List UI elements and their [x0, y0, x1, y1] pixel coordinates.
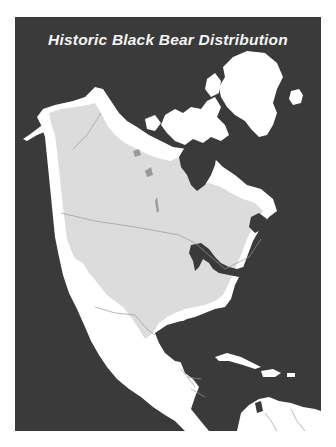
map-title: Historic Black Bear Distribution	[15, 31, 321, 49]
arctic-island-3	[145, 115, 161, 131]
arctic-island-2	[205, 73, 221, 97]
north-america-map	[15, 17, 321, 431]
puerto-rico	[287, 373, 295, 377]
alaska-peninsula	[23, 123, 47, 141]
greenland	[219, 51, 283, 137]
arctic-archipelago	[161, 97, 229, 145]
map-panel: Historic Black Bear Distribution	[15, 17, 321, 431]
iceland	[289, 89, 303, 105]
